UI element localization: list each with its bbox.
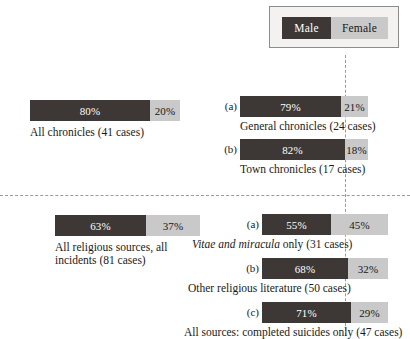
bar-caption-line-2: incidents (81 cases) (55, 254, 200, 267)
bar-caption-rest: only (31 cases) (280, 238, 353, 250)
bar-row: (b) 82% 18% (240, 139, 376, 160)
bar-segment-male: 82% (240, 139, 345, 160)
legend-swatch-male: Male (282, 17, 331, 39)
bar-caption: All sources: completed suicides only (47… (184, 326, 402, 339)
stacked-bar: 82% 18% (240, 139, 368, 160)
bar-caption: Other religious literature (50 cases) (188, 282, 402, 295)
bar-segment-female: 20% (150, 100, 180, 121)
bar-row-tag: (b) (237, 258, 259, 279)
bar-segment-female: 37% (146, 215, 200, 236)
panel-top-left: 80% 20% All chronicles (41 cases) (30, 100, 180, 139)
bar-caption: Vitae and miracula only (31 cases) (192, 238, 402, 251)
stacked-bar: 80% 20% (30, 100, 180, 121)
bar-caption: Town chronicles (17 cases) (240, 163, 376, 176)
bar-caption: All religious sources, all incidents (81… (55, 241, 200, 267)
bar-row: 63% 37% (55, 215, 200, 236)
bar-segment-female: 29% (351, 302, 388, 323)
bar-row: 80% 20% (30, 100, 180, 121)
bar-segment-female: 21% (341, 96, 368, 117)
bar-segment-female: 18% (345, 139, 368, 160)
legend-swatch-row: Male Female (282, 17, 388, 39)
stacked-bar: 63% 37% (55, 215, 200, 236)
bar-segment-male: 80% (30, 100, 150, 121)
bar-segment-male: 79% (240, 96, 341, 117)
panel-top-right: (a) 79% 21% General chronicles (24 cases… (240, 96, 376, 176)
bar-segment-female: 45% (331, 214, 388, 235)
bar-row: (a) 79% 21% (240, 96, 376, 117)
bar-caption: All chronicles (41 cases) (30, 126, 180, 139)
stacked-bar: 79% 21% (240, 96, 368, 117)
bar-caption: General chronicles (24 cases) (240, 120, 376, 133)
bar-segment-male: 55% (262, 214, 331, 235)
panel-bottom-right: (a) 55% 45% Vitae and miracula only (31 … (262, 214, 402, 339)
bar-segment-female: 32% (348, 258, 388, 279)
bar-caption-italic: Vitae and miracula (192, 238, 280, 250)
bar-row: (c) 71% 29% (262, 302, 402, 323)
sex-legend: Male Female (269, 6, 399, 48)
stacked-bar: 71% 29% (262, 302, 388, 323)
bar-segment-male: 63% (55, 215, 146, 236)
horizontal-divider (0, 195, 410, 196)
bar-row-tag: (a) (237, 214, 259, 235)
panel-bottom-left: 63% 37% All religious sources, all incid… (55, 215, 200, 267)
bar-segment-male: 68% (262, 258, 348, 279)
stacked-bar: 68% 32% (262, 258, 388, 279)
legend-swatch-female: Female (331, 17, 388, 39)
bar-caption-line-1: All religious sources, all (55, 241, 200, 254)
bar-row-tag: (a) (215, 96, 237, 117)
bar-row: (a) 55% 45% (262, 214, 402, 235)
bar-row-tag: (c) (237, 302, 259, 323)
stacked-bar: 55% 45% (262, 214, 388, 235)
bar-row-tag: (b) (215, 139, 237, 160)
bar-segment-male: 71% (262, 302, 351, 323)
bar-row: (b) 68% 32% (262, 258, 402, 279)
